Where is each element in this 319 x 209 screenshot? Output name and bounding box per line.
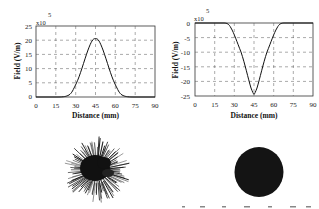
spiky-discharge-image	[65, 137, 129, 203]
left-chart: x10 5 25 20 15 10 5 0 0 15 30 45 60 75 9…	[13, 11, 159, 120]
left-grid	[36, 26, 155, 97]
svg-text:60: 60	[112, 102, 120, 110]
svg-text:90: 90	[310, 101, 318, 109]
svg-text:-25: -25	[181, 93, 191, 101]
svg-text:60: 60	[270, 101, 278, 109]
right-grid	[195, 23, 313, 96]
right-y-axis-label: Field (V/m)	[171, 41, 180, 78]
svg-text:30: 30	[72, 102, 80, 110]
left-yticks: 25 20 15 10 5 0	[25, 23, 33, 101]
svg-text:30: 30	[231, 101, 239, 109]
left-x-axis-label: Distance (mm)	[72, 111, 119, 120]
svg-text:-5: -5	[184, 35, 190, 43]
svg-text:0: 0	[29, 93, 33, 101]
svg-text:15: 15	[211, 101, 219, 109]
svg-text:5: 5	[29, 79, 33, 87]
figure: x10 5 25 20 15 10 5 0 0 15 30 45 60 75 9…	[0, 0, 319, 209]
svg-text:90: 90	[152, 102, 160, 110]
svg-text:0: 0	[187, 20, 191, 28]
right-yticks: 0 -5 -10 -15 -20 -25	[181, 20, 191, 101]
left-xticks: 0 15 30 45 60 75 90	[34, 102, 159, 110]
svg-text:20: 20	[25, 37, 33, 45]
right-multiplier: x10	[194, 15, 204, 22]
svg-text:25: 25	[25, 23, 33, 31]
solid-discharge-image	[235, 147, 284, 197]
left-multiplier: x10	[36, 19, 46, 26]
svg-text:-15: -15	[181, 64, 191, 72]
right-multiplier-exponent: 5	[206, 7, 209, 14]
svg-text:15: 15	[25, 51, 33, 59]
svg-text:-20: -20	[181, 78, 191, 86]
left-multiplier-exponent: 5	[48, 11, 51, 18]
svg-text:75: 75	[132, 102, 140, 110]
left-y-axis-label: Field (V/m)	[13, 42, 22, 79]
svg-text:-10: -10	[181, 49, 191, 57]
svg-text:45: 45	[92, 102, 100, 110]
svg-text:15: 15	[52, 102, 60, 110]
svg-text:75: 75	[290, 101, 298, 109]
svg-text:10: 10	[25, 65, 33, 73]
svg-text:0: 0	[193, 101, 197, 109]
right-chart: x10 5 0 -5 -10 -15 -20 -25 0 15 30 45 60…	[171, 7, 317, 120]
right-x-axis-label: Distance (mm)	[231, 111, 278, 120]
bottom-faint-marks	[182, 206, 311, 208]
right-xticks: 0 15 30 45 60 75 90	[193, 101, 317, 109]
svg-text:0: 0	[34, 102, 38, 110]
svg-text:45: 45	[251, 101, 259, 109]
